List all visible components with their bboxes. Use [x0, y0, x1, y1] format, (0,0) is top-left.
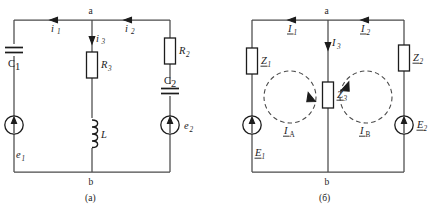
component-label-e2: e	[184, 120, 189, 131]
current-sub-I1: 1	[294, 29, 298, 37]
current-label-I3: I	[331, 37, 336, 48]
component-e1: e 1	[5, 116, 25, 163]
panel-a: a b i 1 i 2 i 3 C 1	[5, 6, 194, 204]
current-label-i2: i	[125, 23, 128, 34]
component-Z2: Z 2	[399, 45, 424, 71]
component-C1: C 1	[5, 44, 23, 72]
panel-b-caption: (б)	[319, 193, 330, 204]
component-label-Z2: Z	[413, 52, 419, 63]
component-sub-Z2: 2	[420, 58, 424, 66]
component-R2: R 2	[165, 38, 191, 64]
component-sub-E1: 1	[262, 153, 266, 161]
component-label-R3: R	[100, 59, 108, 70]
panel-a-caption: (a)	[85, 193, 96, 204]
current-label-I1: I	[287, 23, 292, 34]
current-sub-i2: 2	[131, 28, 135, 36]
component-e2: e 2	[161, 116, 194, 134]
component-label-C2: C	[164, 75, 171, 86]
component-C2: C 2	[161, 75, 179, 96]
component-L: L	[88, 118, 107, 148]
component-label-C1: C	[8, 58, 15, 69]
component-label-L: L	[100, 129, 107, 140]
current-sub-i1: 1	[57, 28, 61, 36]
component-label-R2: R	[178, 45, 186, 56]
current-sub-i3: 3	[101, 38, 106, 46]
circuit-svg: a b i 1 i 2 i 3 C 1	[0, 0, 432, 206]
node-label-b-bottom: b	[325, 177, 330, 187]
component-R3: R 3	[87, 52, 113, 78]
component-sub-e2: 2	[190, 126, 194, 134]
mesh-sub-IB: B	[366, 131, 371, 139]
node-label-a-bottom: b	[89, 177, 94, 187]
component-sub-C2: 2	[171, 78, 176, 89]
current-arrow-I1: I 1	[287, 17, 297, 36]
component-E1: E 1	[243, 116, 265, 161]
panel-b: a b I 1 I 2 I 3 Z 1	[243, 6, 428, 204]
current-label-i3: i	[96, 33, 99, 44]
component-label-Z1: Z	[261, 55, 267, 66]
component-sub-R3: 3	[107, 65, 112, 73]
node-label-b-top: a	[325, 6, 330, 16]
current-sub-I3: 3	[336, 43, 341, 51]
mesh-loop-IB: I B	[340, 71, 392, 139]
component-E2: E 2	[395, 116, 428, 134]
component-Z1: Z 1	[247, 48, 272, 74]
current-sub-I2: 2	[367, 29, 371, 37]
circuit-figure: a b i 1 i 2 i 3 C 1	[0, 0, 432, 206]
current-label-I2: I	[360, 23, 365, 34]
component-Z3: Z 3	[323, 82, 348, 108]
node-label-a-top: a	[89, 6, 94, 16]
component-sub-E2: 2	[424, 125, 428, 133]
component-sub-e1: 1	[22, 155, 26, 163]
current-label-i1: i	[51, 23, 54, 34]
mesh-loop-IA: I A	[264, 71, 316, 139]
component-sub-C1: 1	[15, 61, 20, 72]
component-sub-Z3: 3	[343, 95, 348, 103]
mesh-label-IB: I	[359, 125, 364, 136]
current-arrow-I2: I 2	[360, 17, 371, 36]
component-sub-Z1: 1	[268, 61, 272, 69]
component-label-e1: e	[16, 149, 21, 160]
mesh-sub-IA: A	[290, 131, 296, 139]
component-sub-R2: 2	[186, 51, 190, 59]
mesh-label-IA: I	[283, 125, 288, 136]
